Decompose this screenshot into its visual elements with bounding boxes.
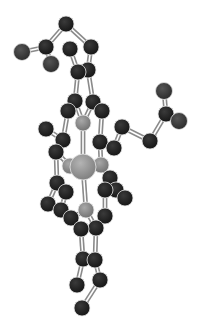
carbon-atom <box>62 41 78 57</box>
molecule-diagram <box>0 0 204 328</box>
nitrogen-atom <box>75 115 91 131</box>
carbon-atom <box>92 134 108 150</box>
carbon-atom <box>38 39 54 55</box>
carbon-atom <box>87 252 103 268</box>
carbon-atom <box>73 221 89 237</box>
carbon-atom <box>88 220 104 236</box>
metal-atom <box>70 154 96 180</box>
oxygen-atom <box>156 83 173 100</box>
carbon-atom <box>60 103 76 119</box>
oxygen-atom <box>171 113 188 130</box>
atom-layer <box>14 16 188 316</box>
carbon-atom <box>69 277 85 293</box>
carbon-atom <box>58 184 74 200</box>
carbon-atom <box>97 182 113 198</box>
carbon-atom <box>70 64 86 80</box>
carbon-atom <box>142 133 158 149</box>
carbon-atom <box>83 39 99 55</box>
oxygen-atom <box>43 56 60 73</box>
carbon-atom <box>94 103 110 119</box>
carbon-atom <box>58 16 74 32</box>
nitrogen-atom <box>78 202 94 218</box>
carbon-atom <box>106 140 122 156</box>
carbon-atom <box>38 121 54 137</box>
carbon-atom <box>117 190 133 206</box>
carbon-atom <box>114 119 130 135</box>
carbon-atom <box>48 144 64 160</box>
carbon-atom <box>74 300 90 316</box>
carbon-atom <box>92 272 108 288</box>
oxygen-atom <box>14 44 31 61</box>
